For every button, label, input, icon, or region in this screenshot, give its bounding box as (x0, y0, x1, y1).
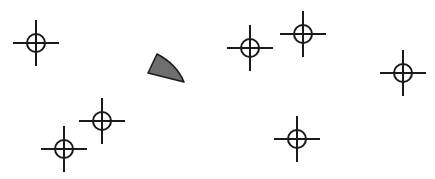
crosshair-target-icon (41, 126, 87, 172)
crosshair-target-icon (227, 25, 273, 71)
crosshair-target-icon (274, 116, 320, 162)
crosshair-layer (13, 11, 426, 172)
diagram-canvas (0, 0, 435, 179)
crosshair-target-icon (13, 20, 59, 66)
crosshair-target-icon (79, 98, 125, 144)
crosshair-target-icon (380, 50, 426, 96)
wedge-marker-shape (148, 54, 184, 82)
crosshair-target-icon (280, 11, 326, 57)
